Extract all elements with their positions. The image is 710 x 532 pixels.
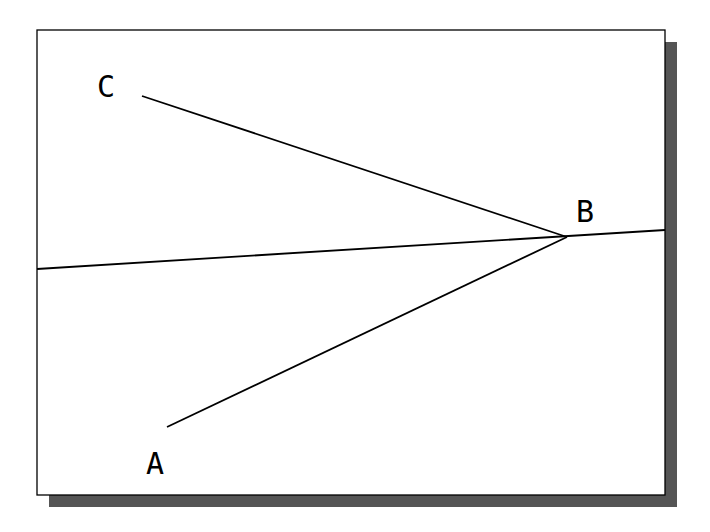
geometry-diagram: C B A — [0, 0, 710, 532]
point-label-b: B — [576, 194, 594, 229]
point-label-c: C — [97, 69, 115, 104]
point-label-a: A — [146, 446, 164, 481]
